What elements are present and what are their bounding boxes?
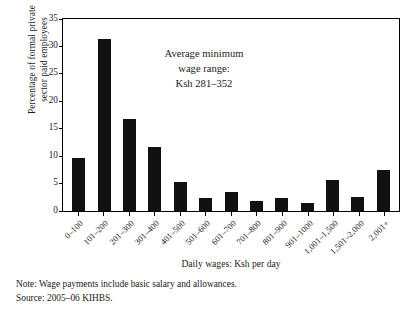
x-tick-label: 401–500 bbox=[158, 218, 187, 247]
y-axis-title-line-1: Percentage of formal private bbox=[27, 0, 39, 160]
y-tick-label: 25 bbox=[49, 67, 58, 77]
x-tick-mark bbox=[103, 212, 104, 216]
x-tick-mark bbox=[129, 212, 130, 216]
figure-notes: Note: Wage payments include basic salary… bbox=[16, 278, 408, 305]
x-tick-mark bbox=[333, 212, 334, 216]
annotation-line-3: Ksh 281–352 bbox=[118, 76, 290, 91]
source-line: Source: 2005–06 KIHBS. bbox=[16, 292, 408, 306]
y-tick-label: 0 bbox=[53, 205, 58, 215]
x-tick-mark bbox=[282, 212, 283, 216]
y-tick-label: 30 bbox=[49, 40, 58, 50]
bar-slot bbox=[320, 19, 345, 211]
x-tick-mark bbox=[359, 212, 360, 216]
x-tick-mark bbox=[256, 212, 257, 216]
bar bbox=[275, 198, 288, 211]
bar bbox=[199, 198, 212, 211]
y-axis-title: Percentage of formal private sector paid… bbox=[27, 0, 50, 160]
bar bbox=[72, 158, 85, 211]
annotation-line-2: wage range: bbox=[118, 61, 290, 76]
x-tick-mark bbox=[231, 212, 232, 216]
bar bbox=[98, 39, 111, 211]
bar-slot bbox=[91, 19, 116, 211]
x-axis-title: Daily wages: Ksh per day bbox=[62, 258, 400, 269]
x-tick-mark bbox=[180, 212, 181, 216]
x-tick-mark bbox=[205, 212, 206, 216]
bar-slot bbox=[371, 19, 396, 211]
bar-slot bbox=[295, 19, 320, 211]
bar-slot bbox=[66, 19, 91, 211]
bar-slot bbox=[345, 19, 370, 211]
x-tick-mark bbox=[308, 212, 309, 216]
y-tick-label: 35 bbox=[49, 13, 58, 23]
bar bbox=[326, 180, 339, 211]
y-tick-label: 15 bbox=[49, 122, 58, 132]
x-tick-mark bbox=[384, 212, 385, 216]
y-axis-title-line-2: sector paid employees bbox=[38, 0, 50, 160]
x-tick-label: 601–700 bbox=[209, 218, 238, 247]
y-tick-label: 20 bbox=[49, 95, 58, 105]
note-line: Note: Wage payments include basic salary… bbox=[16, 278, 408, 292]
x-tick-label: 101–200 bbox=[82, 218, 111, 247]
x-tick-label: 301–400 bbox=[133, 218, 162, 247]
bar bbox=[250, 201, 263, 211]
x-tick-label: 501–600 bbox=[184, 218, 213, 247]
chart-figure: Percentage of formal private sector paid… bbox=[0, 0, 420, 313]
x-tick-label: 701–800 bbox=[235, 218, 264, 247]
bar bbox=[351, 197, 364, 211]
x-tick-label: 201–300 bbox=[107, 218, 136, 247]
bar bbox=[225, 192, 238, 211]
bar bbox=[123, 119, 136, 211]
bar bbox=[377, 170, 390, 211]
bar bbox=[174, 182, 187, 211]
annotation-line-1: Average minimum bbox=[118, 46, 290, 61]
x-tick-mark bbox=[154, 212, 155, 216]
wage-range-annotation: Average minimum wage range: Ksh 281–352 bbox=[118, 46, 290, 91]
y-tick-label: 10 bbox=[49, 150, 58, 160]
bar bbox=[301, 203, 314, 211]
bar bbox=[148, 147, 161, 211]
y-tick-label: 5 bbox=[53, 177, 58, 187]
x-tick-mark bbox=[78, 212, 79, 216]
x-tick-label: 2,001+ bbox=[367, 218, 392, 243]
x-tick-label: 0–100 bbox=[62, 218, 85, 241]
